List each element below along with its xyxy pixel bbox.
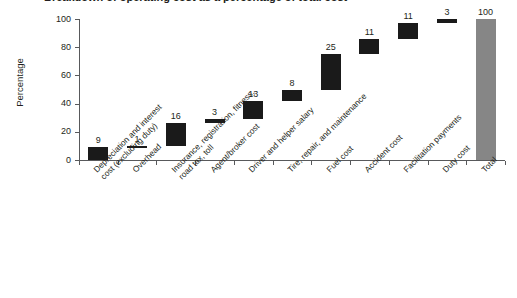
y-tick-label: 80 bbox=[0, 43, 71, 52]
x-tick-mark bbox=[466, 161, 467, 165]
increment-bar bbox=[321, 54, 341, 89]
y-tick-mark bbox=[75, 104, 79, 105]
x-tick-mark bbox=[273, 161, 274, 165]
y-tick-mark bbox=[75, 75, 79, 76]
y-tick-label: 40 bbox=[0, 99, 71, 108]
increment-bar bbox=[282, 90, 302, 101]
y-tick-label: 100 bbox=[0, 15, 71, 24]
y-tick-mark bbox=[75, 47, 79, 48]
bar-value-label: 25 bbox=[311, 43, 351, 52]
x-tick-mark bbox=[428, 161, 429, 165]
y-tick-label: 0 bbox=[0, 156, 71, 165]
increment-bar bbox=[166, 123, 186, 146]
y-tick-label: 20 bbox=[0, 127, 71, 136]
x-category-label-line: Fuel cost bbox=[324, 143, 355, 174]
x-tick-mark bbox=[234, 161, 235, 165]
x-tick-mark bbox=[311, 161, 312, 165]
x-category-label-line: Accident cost bbox=[363, 132, 405, 174]
x-category-label-line: Duty cost bbox=[440, 143, 472, 175]
x-tick-mark bbox=[156, 161, 157, 165]
bar-value-label: 9 bbox=[78, 136, 118, 145]
bar-value-label: 100 bbox=[466, 8, 506, 17]
bar-value-label: 8 bbox=[272, 79, 312, 88]
bar-value-label: 11 bbox=[388, 12, 428, 21]
y-tick-mark bbox=[75, 132, 79, 133]
y-axis-title: Percentage bbox=[14, 43, 25, 123]
y-tick-label: 60 bbox=[0, 71, 71, 80]
x-category-label-line: Tire, repair, and maintenance bbox=[285, 91, 368, 174]
x-tick-mark bbox=[389, 161, 390, 165]
increment-bar bbox=[359, 39, 379, 55]
x-tick-mark bbox=[79, 161, 80, 165]
increment-bar bbox=[398, 23, 418, 39]
bar-value-label: 11 bbox=[349, 28, 389, 37]
x-tick-mark bbox=[350, 161, 351, 165]
y-tick-mark bbox=[75, 19, 79, 20]
plot-area: Percentage 020406080100 9116313825111131… bbox=[0, 0, 517, 298]
x-category-label: Accident cost bbox=[363, 133, 405, 175]
increment-bar bbox=[437, 19, 457, 23]
total-bar bbox=[476, 19, 496, 160]
x-tick-mark bbox=[505, 161, 506, 165]
waterfall-chart-figure: Breakdown of operating cost as a percent… bbox=[0, 0, 517, 298]
bar-value-label: 3 bbox=[427, 8, 467, 17]
